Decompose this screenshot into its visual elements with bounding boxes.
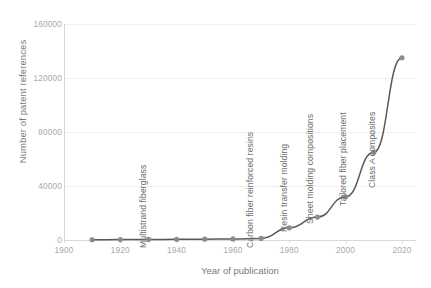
plot-area — [64, 24, 416, 240]
x-axis-tick-label: 1980 — [269, 246, 309, 255]
annotation-label: Class A composites — [367, 112, 377, 188]
x-axis-tick-mark — [402, 240, 403, 243]
series-line — [64, 24, 416, 240]
x-axis-tick-label: 1940 — [157, 246, 197, 255]
x-axis-tick-label: 1920 — [100, 246, 140, 255]
y-axis-tick-label: 80000 — [8, 128, 62, 137]
data-point-marker — [259, 236, 264, 241]
y-axis-tick-label: 0 — [8, 236, 62, 245]
data-point-marker — [315, 214, 320, 219]
x-axis-tick-mark — [346, 240, 347, 243]
y-axis-tick-label: 120000 — [8, 74, 62, 83]
annotation-label: Tailored fiber placement — [338, 112, 348, 206]
data-point-marker — [202, 237, 207, 242]
x-axis-tick-label: 1900 — [44, 246, 84, 255]
data-point-marker — [90, 237, 95, 242]
annotation-label: Resin transfer molding — [279, 144, 289, 232]
annotation-label: Multistrand fiberglass — [138, 165, 148, 248]
data-point-marker — [118, 237, 123, 242]
x-axis-tick-label: 2000 — [326, 246, 366, 255]
annotation-label: Carbon fiber reinforced resins — [245, 132, 255, 248]
x-axis-tick-label: 2020 — [382, 246, 422, 255]
annotation-label: Sheet molding compositions — [305, 114, 315, 224]
y-axis-tick-label: 40000 — [8, 182, 62, 191]
data-point-marker — [230, 236, 235, 241]
patent-references-line-chart: Number of patent references 040000800001… — [0, 0, 431, 288]
y-axis-tick-labels: 04000080000120000160000 — [0, 0, 62, 288]
x-axis-title: Year of publication — [60, 265, 420, 276]
x-axis-tick-mark — [289, 240, 290, 243]
data-point-marker — [399, 55, 404, 60]
data-point-marker — [174, 237, 179, 242]
x-axis-tick-mark — [64, 240, 65, 243]
y-axis-tick-label: 160000 — [8, 20, 62, 29]
